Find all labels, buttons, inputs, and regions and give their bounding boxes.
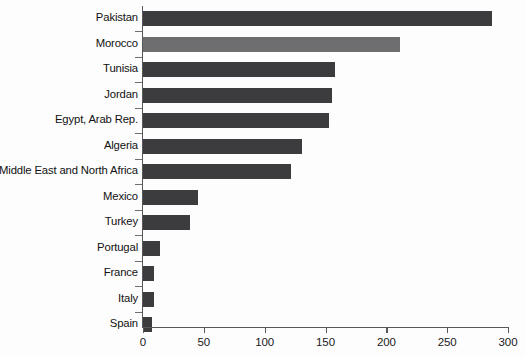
bar	[143, 292, 154, 307]
category-label: France	[104, 266, 138, 278]
value-tick-label: 200	[377, 336, 396, 348]
category-tick	[135, 82, 142, 83]
bar	[143, 190, 198, 205]
value-tick-label: 300	[499, 336, 518, 348]
category-tick	[135, 57, 142, 58]
value-tick	[265, 328, 266, 333]
category-label: Turkey	[105, 215, 138, 227]
value-tick	[508, 328, 509, 333]
category-label: Portugal	[97, 241, 138, 253]
category-label: Italy	[118, 292, 138, 304]
bar	[143, 113, 329, 128]
value-tick-label: 150	[316, 336, 335, 348]
category-tick	[135, 184, 142, 185]
category-tick	[135, 108, 142, 109]
bar	[143, 164, 291, 179]
value-tick	[204, 328, 205, 333]
value-tick-label: 100	[255, 336, 274, 348]
value-tick-label: 0	[140, 336, 146, 348]
bar	[143, 11, 492, 26]
value-tick-label: 250	[438, 336, 457, 348]
value-tick	[143, 328, 144, 333]
category-tick	[135, 210, 142, 211]
category-tick	[135, 286, 142, 287]
y-axis-line	[142, 6, 143, 328]
bar	[143, 215, 190, 230]
bar	[143, 139, 302, 154]
category-label: Pakistan	[96, 11, 138, 23]
bar	[143, 241, 160, 256]
category-label: Middle East and North Africa	[0, 164, 138, 176]
category-label: Tunisia	[103, 62, 138, 74]
category-tick	[135, 31, 142, 32]
category-label: Mexico	[103, 190, 138, 202]
category-label: Morocco	[96, 37, 138, 49]
value-tick	[326, 328, 327, 333]
category-tick	[135, 312, 142, 313]
value-tick	[447, 328, 448, 333]
bar	[143, 37, 400, 52]
category-label: Algeria	[104, 139, 138, 151]
value-tick	[386, 328, 387, 333]
bar	[143, 88, 332, 103]
bar	[143, 266, 154, 281]
bar	[143, 62, 335, 77]
category-tick	[135, 261, 142, 262]
category-label: Egypt, Arab Rep.	[55, 113, 138, 125]
bar	[143, 317, 152, 332]
value-tick-label: 50	[198, 336, 211, 348]
category-tick	[135, 133, 142, 134]
category-tick	[135, 235, 142, 236]
category-label: Spain	[110, 317, 138, 329]
category-label: Jordan	[104, 88, 138, 100]
bar-chart: PakistanMoroccoTunisiaJordanEgypt, Arab …	[0, 0, 525, 357]
category-tick	[135, 159, 142, 160]
